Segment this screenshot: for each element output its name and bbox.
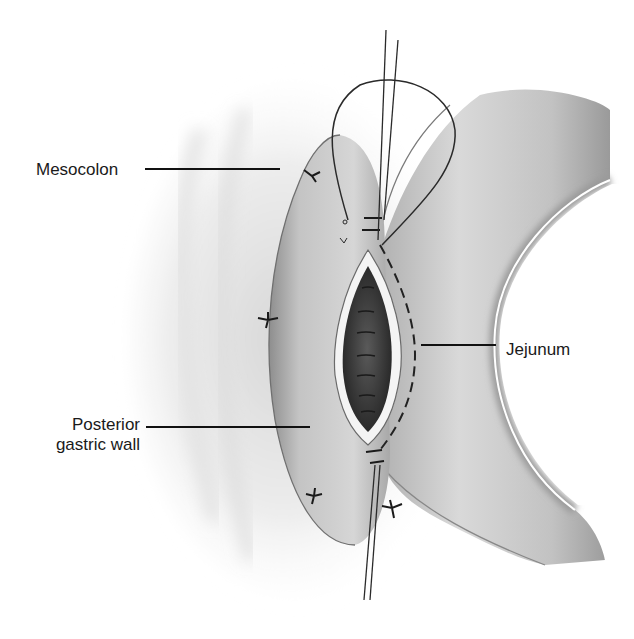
leader-line-mesocolon <box>145 168 280 170</box>
label-mesocolon: Mesocolon <box>36 160 118 180</box>
label-posterior-gastric-wall-line1: Posterior <box>30 415 140 435</box>
leader-line-posterior-gastric-wall <box>146 426 310 428</box>
anatomy-illustration <box>0 0 634 639</box>
diagram-canvas: Mesocolon Jejunum Posterior gastric wall <box>0 0 634 639</box>
label-jejunum: Jejunum <box>506 340 570 360</box>
label-posterior-gastric-wall-line2: gastric wall <box>30 435 140 455</box>
leader-line-jejunum <box>421 344 496 346</box>
label-posterior-gastric-wall: Posterior gastric wall <box>30 415 140 455</box>
